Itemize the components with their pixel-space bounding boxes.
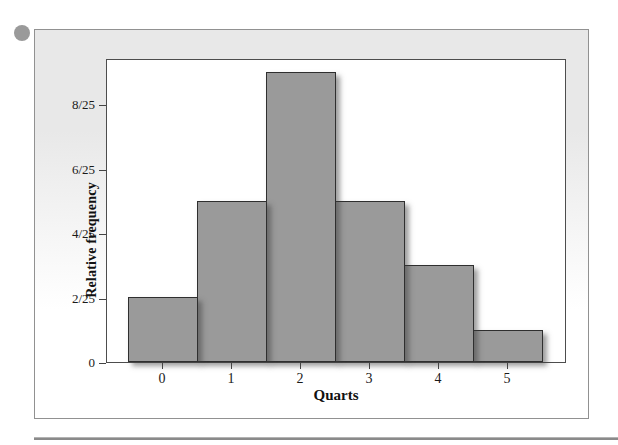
list-bullet-icon [14,25,30,41]
x-tick-mark [369,363,370,369]
y-tick-mark [99,105,106,106]
y-tick-mark [99,170,106,171]
x-tick-label: 3 [358,371,380,387]
y-tick-mark [99,234,106,235]
page: 02/254/256/258/25 012345 Relative freque… [0,0,618,445]
y-tick-label: 8/25 [35,96,95,114]
y-tick-mark [99,299,106,300]
x-tick-label: 5 [496,371,518,387]
bars-container [107,60,565,362]
x-axis-title: Quarts [106,387,566,404]
x-tick-mark [231,363,232,369]
x-tick-label: 0 [151,371,173,387]
histogram-bar-x5 [473,330,543,362]
histogram-bar-x2 [266,72,336,362]
y-tick-mark [99,363,106,364]
histogram-bar-x1 [197,201,267,362]
y-axis-title: Relative frequency [84,182,100,298]
x-tick-mark [507,363,508,369]
x-tick-label: 2 [289,371,311,387]
x-tick-label: 4 [427,371,449,387]
histogram-bar-x3 [335,201,405,362]
x-tick-label: 1 [220,371,242,387]
y-tick-label: 0 [35,354,95,372]
x-tick-mark [162,363,163,369]
figure-panel: 02/254/256/258/25 012345 Relative freque… [34,29,589,419]
histogram-bar-x4 [404,265,474,362]
y-tick-label: 6/25 [35,161,95,179]
x-tick-mark [438,363,439,369]
histogram-bar-x0 [128,297,198,362]
plot-area [106,59,566,363]
horizontal-rule [34,437,618,440]
x-tick-mark [300,363,301,369]
